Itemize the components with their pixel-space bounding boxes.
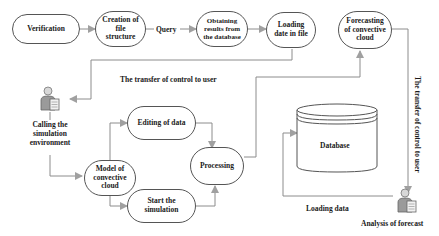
- node-processing: Processing: [190, 147, 244, 185]
- node-verification: Verification: [12, 14, 80, 44]
- node-database: Database: [320, 141, 350, 150]
- node-loading-date: Loading date in file: [266, 12, 316, 48]
- node-editing-data: Editing of data: [127, 106, 196, 140]
- label-transfer-control-vertical: The transfer of control to user: [413, 76, 422, 173]
- user-with-document-icon: [396, 188, 418, 214]
- node-start-simulation: Start the simulation: [127, 189, 196, 223]
- node-obtaining-results: Obtaining results from the database: [196, 11, 248, 47]
- node-forecasting: Forecasting of convective cloud: [338, 11, 392, 49]
- label-analysis-forecast: Analysis of forecast: [361, 219, 423, 228]
- user-with-document-icon: [39, 86, 61, 112]
- label-transfer-control-horizontal: The transfer of control to user: [120, 75, 217, 84]
- database-cylinder-shape: [297, 104, 377, 172]
- node-creation-file-structure: Creation of file structure: [95, 11, 146, 47]
- label-calling-simulation: Calling the simulation environment: [22, 120, 78, 147]
- label-query: Query: [156, 25, 176, 34]
- label-loading-data: Loading data: [306, 204, 349, 213]
- node-model-convective: Model of convective cloud: [84, 160, 136, 196]
